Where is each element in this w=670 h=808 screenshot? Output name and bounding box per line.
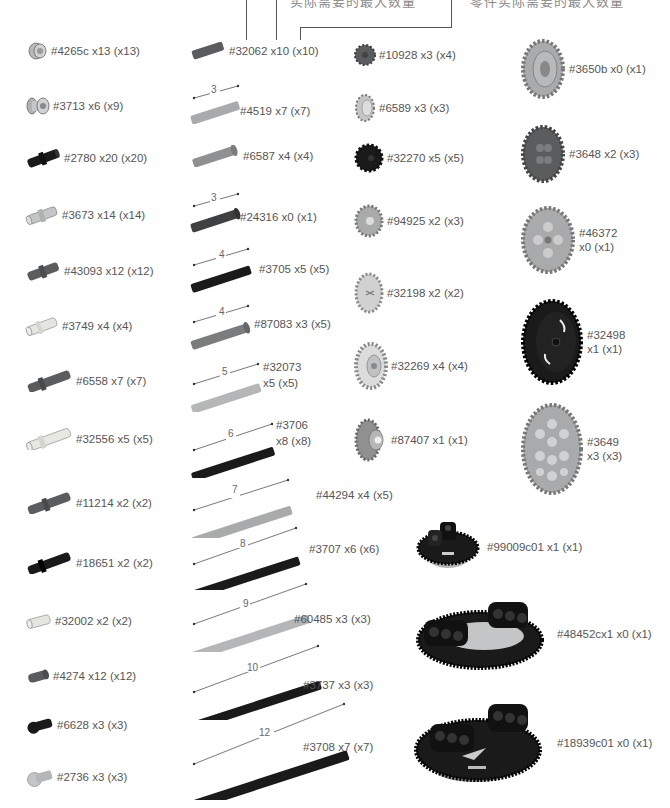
annotation-line-max [300, 27, 301, 40]
part-32498: #32498 x1 (x1) [520, 298, 647, 386]
part-label: #2780 x20 (x20) [64, 151, 147, 165]
gear-8-tooth-icon [354, 44, 376, 66]
part-label: #2736 x3 (x3) [57, 770, 127, 784]
part-label: #3648 x2 (x3) [569, 147, 639, 161]
part-label: #46372 x0 (x1) [579, 226, 639, 254]
part-label: #32556 x5 (x5) [76, 432, 153, 446]
axle-length-3-icon [188, 192, 248, 234]
long-pin-icon [25, 428, 73, 450]
part-label: #6589 x3 (x3) [379, 101, 449, 115]
part-label-line1: #3649 [587, 436, 619, 448]
axle-length-label: 12 [259, 727, 270, 738]
part-87407: #87407 x1 (x1) [354, 418, 468, 462]
axle-pin-icon [25, 261, 61, 281]
part-label: #10928 x3 (x4) [379, 48, 456, 62]
part-label: #32498 x1 (x1) [587, 328, 647, 356]
annotation-line-qty [276, 0, 277, 40]
part-label-line2: x8 (x8) [276, 434, 311, 448]
part-32270: #32270 x5 (x5) [354, 143, 464, 173]
gear-36-tooth-icon [520, 298, 584, 386]
part-label: #4274 x12 (x12) [53, 669, 136, 683]
part-4274: #4274 x12 (x12) [26, 667, 136, 685]
pin-icon [25, 148, 61, 168]
part-3648: #3648 x2 (x3) [520, 124, 639, 184]
part-label: #3749 x4 (x4) [62, 319, 132, 333]
pin-icon [26, 612, 52, 630]
part-label: #3707 x6 (x6) [309, 542, 379, 556]
annotation-line-part [246, 0, 247, 40]
towball-axle-icon [26, 767, 54, 787]
part-label-line1: #32073 [263, 360, 301, 374]
part-32269: #32269 x4 (x4) [354, 342, 468, 390]
part-6628: #6628 x3 (x3) [26, 715, 127, 735]
part-32556: #32556 x5 (x5) [25, 428, 153, 450]
part-label: #11214 x2 (x2) [76, 496, 152, 510]
axle-icon [190, 42, 226, 60]
part-label: #18651 x2 (x2) [76, 556, 153, 570]
part-label: #3737 x3 (x3) [303, 678, 373, 692]
part-label: #6558 x7 (x7) [76, 374, 146, 388]
axle-length-label: 8 [240, 538, 246, 549]
part-94925: #94925 x2 (x3) [354, 204, 464, 238]
pin-icon [25, 205, 59, 225]
part-10928: #10928 x3 (x4) [354, 44, 456, 66]
part-4519: 3 #4519 x7 (x7) [188, 84, 248, 128]
large-turntable-icon [414, 700, 554, 786]
small-turntable-icon [416, 516, 484, 578]
part-2780: #2780 x20 (x20) [25, 148, 147, 168]
part-label: #87407 x1 (x1) [391, 433, 468, 447]
bush-icon [28, 42, 48, 60]
gear-24-tooth-icon [520, 124, 566, 184]
part-label: #32269 x4 (x4) [391, 359, 468, 373]
part-label: #32062 x10 (x10) [229, 44, 319, 58]
part-48452cx1: #48452cx1 x0 (x1) [414, 596, 652, 672]
part-3708: 12 #3708 x7 (x7) [188, 700, 358, 804]
bush-icon [26, 96, 50, 116]
part-3749: #3749 x4 (x4) [25, 316, 132, 336]
part-87083: 4 #87083 x3 (x5) [188, 302, 260, 354]
annotation-required-qty: 实际需要的最大数量 [290, 0, 416, 10]
large-turntable-icon [414, 596, 554, 672]
axle-length-label: 5 [222, 366, 228, 377]
axle-length-label: 4 [219, 306, 225, 317]
part-11214: #11214 x2 (x2) [25, 492, 152, 514]
part-label: #4519 x7 (x7) [240, 104, 310, 118]
axle-length-6-icon [188, 418, 282, 478]
part-6589: #6589 x3 (x3) [354, 94, 449, 122]
double-bevel-gear-icon [354, 342, 388, 390]
gear-24-tooth-icon [520, 38, 566, 100]
part-3705: 4 #3705 x5 (x5) [188, 245, 260, 297]
part-4265c: #4265c x13 (x13) [28, 42, 140, 60]
part-2736: #2736 x3 (x3) [26, 767, 127, 787]
axle-length-label: 3 [211, 84, 217, 95]
part-18651: #18651 x2 (x2) [25, 552, 153, 574]
part-label: #99009c01 x1 (x1) [487, 540, 582, 554]
part-label: #3713 x6 (x9) [53, 99, 123, 113]
axle-length-label: 7 [232, 484, 238, 495]
gear-12-tooth-icon [354, 143, 384, 173]
part-label: #3649 x3 (x3) [587, 435, 647, 463]
part-label: #24316 x0 (x1) [240, 210, 317, 224]
axle-pin-icon [25, 316, 59, 336]
part-label: #32270 x5 (x5) [387, 151, 464, 165]
annotation-actual-qty: 零件实际需要的最大数量 [470, 0, 624, 10]
part-label: #6628 x3 (x3) [57, 718, 127, 732]
axle-length-3-icon [188, 84, 248, 124]
part-label: #3705 x5 (x5) [259, 262, 329, 276]
axle-length-label: 6 [228, 428, 234, 439]
part-label: #32198 x2 (x2) [387, 286, 464, 300]
part-label-line1: #46372 [579, 227, 617, 239]
part-label: #6587 x4 (x4) [243, 149, 313, 163]
long-pin-icon [25, 370, 73, 392]
annotation-line-vertical-right [451, 0, 452, 28]
bevel-gear-icon [354, 94, 376, 122]
part-label: #60485 x3 (x3) [294, 612, 371, 626]
axle-length-label: 4 [219, 249, 225, 260]
part-3673: #3673 x14 (x14) [25, 205, 145, 225]
long-axle-pin-icon [25, 492, 73, 514]
part-3706: 6 #3706 x8 (x8) [188, 418, 282, 482]
part-32002: #32002 x2 (x2) [26, 612, 132, 630]
towball-pin-icon [26, 715, 54, 735]
part-32062: #32062 x10 (x10) [190, 42, 319, 60]
annotation-line-horizontal [300, 27, 452, 28]
